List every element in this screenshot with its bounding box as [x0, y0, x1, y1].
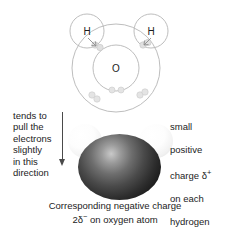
bottom-caption-line-2: 2δ− on oxygen atom — [0, 211, 230, 226]
oxygen-inner-electrons — [109, 87, 124, 93]
bottom-caption-line-2-suffix: on oxygen atom — [87, 215, 157, 226]
right-annotation-line-1: small — [170, 121, 192, 132]
delta-positive-superscript: + — [207, 168, 211, 177]
right-annotation-line-3-prefix: charge — [170, 170, 202, 181]
direction-arrow-shaft — [62, 112, 63, 162]
bottom-caption-line-1: Corresponding negative charge — [49, 200, 182, 211]
oxygen-label: O — [112, 63, 120, 74]
hydrogen-right-label: H — [147, 26, 154, 37]
water-polarity-figure: O H H tends to pull the electrons slight… — [0, 0, 230, 227]
oxygen-sphere — [78, 134, 161, 200]
left-annotation: tends to pull the electrons slightly in … — [13, 110, 61, 178]
bottom-caption: Corresponding negative charge 2δ− on oxy… — [0, 200, 230, 226]
bohr-shell-diagram: O H H — [0, 0, 230, 120]
right-annotation-line-2: positive — [170, 144, 202, 155]
hydrogen-left-label: H — [83, 26, 90, 37]
